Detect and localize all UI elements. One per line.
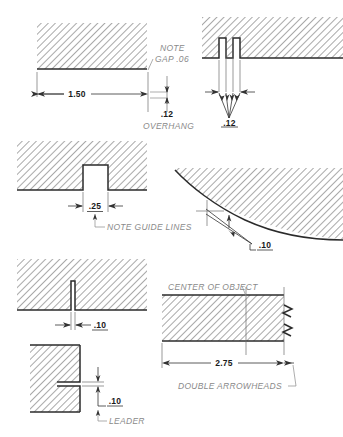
dim-value-150: 1.50 <box>68 89 85 99</box>
figure-center-of-object: CENTER OF OBJECT 2.75 DOUBLE ARROWHEADS <box>162 282 296 391</box>
leader-note-guide-lines <box>95 214 105 227</box>
hatched-block-notch <box>17 141 147 190</box>
figure-notch-guide-lines: .25 NOTE GUIDE LINES <box>17 141 192 232</box>
arrowhead-converge-2 <box>225 94 229 101</box>
leader-double-arrowheads <box>288 365 296 386</box>
note-label-gap-06: GAP .06 <box>155 54 189 64</box>
dim-value-12-slot: .12 <box>223 118 235 128</box>
drawing-sheet: 1.50 NOTE GAP .06 .12 OVERHANG <box>0 0 343 437</box>
figure-curved-surface: .10 <box>175 168 343 250</box>
figure-double-slot: .12 <box>202 17 343 128</box>
dim-value-12-overhang: .12 <box>161 109 173 119</box>
arrowhead-converge-3 <box>229 94 234 101</box>
hatched-block-overhang <box>37 23 147 69</box>
leader-gap-06 <box>148 59 153 70</box>
dim-value-10-leader: .10 <box>109 396 121 406</box>
figure-thin-slot: .10 <box>17 259 147 330</box>
note-label-center-of-object: CENTER OF OBJECT <box>168 282 258 292</box>
dim-value-10-curve: .10 <box>259 240 271 250</box>
note-label-overhang: OVERHANG <box>143 121 194 131</box>
note-label-note: NOTE <box>160 43 185 53</box>
note-label-guide-lines: NOTE GUIDE LINES <box>107 222 192 232</box>
figure-leader-slot: .10 LEADER <box>30 345 145 426</box>
hatched-block-leader-slot <box>30 345 80 412</box>
arrowhead-converge-4 <box>234 94 240 101</box>
dim-value-10-thin-slot: .10 <box>94 320 106 330</box>
dim-elbow-10-leader <box>98 400 106 406</box>
hatched-block-thin-slot <box>17 259 147 310</box>
leader-line-note <box>98 410 107 421</box>
technical-drawing-canvas: 1.50 NOTE GAP .06 .12 OVERHANG <box>0 0 343 437</box>
figure-overhang-gap: 1.50 NOTE GAP .06 .12 OVERHANG <box>37 23 194 131</box>
dim-value-25: .25 <box>89 201 101 211</box>
hatched-block-curve <box>175 168 343 239</box>
dim-elbow-10-curve <box>250 244 256 250</box>
arrowhead-converge-1 <box>219 94 225 101</box>
note-label-double-arrowheads: DOUBLE ARROWHEADS <box>178 381 282 391</box>
note-label-leader: LEADER <box>109 416 145 426</box>
hatched-block-center <box>162 295 284 341</box>
dim-value-275: 2.75 <box>215 358 232 368</box>
